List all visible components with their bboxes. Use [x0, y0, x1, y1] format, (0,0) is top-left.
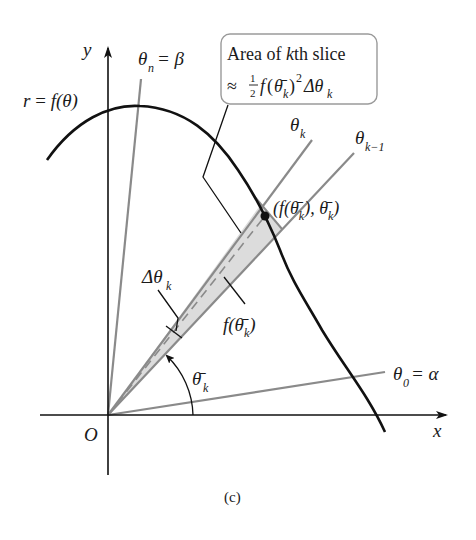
- ray-theta-k: [108, 140, 312, 415]
- theta-0-label: θ: [393, 363, 402, 384]
- theta-k-label: θ: [290, 114, 299, 135]
- callout-delta-sub: k: [327, 87, 333, 101]
- theta-n-label: θ: [138, 48, 147, 69]
- callout-leader: [203, 105, 241, 233]
- callout-frac-num: 1: [250, 72, 256, 84]
- callout-paren-close: ): [289, 76, 295, 97]
- theta-n-sub: n: [148, 61, 154, 75]
- angle-theta-bar-sub: k: [203, 381, 209, 395]
- theta-k-sub: k: [300, 127, 306, 141]
- point-label: (f(θ̄k), θ̄k): [273, 198, 339, 223]
- y-axis-label: y: [81, 39, 92, 60]
- theta-n-rest: = β: [157, 48, 185, 69]
- origin-label: O: [84, 424, 98, 445]
- sample-point: [261, 212, 270, 221]
- callout-sup-2: 2: [296, 71, 302, 85]
- delta-theta-label: Δθ: [141, 266, 162, 287]
- ray-theta-n: [108, 79, 141, 415]
- callout-delta-theta: Δθ: [303, 76, 324, 96]
- theta-k-minus-1-label: θ: [355, 127, 364, 148]
- callout-approx: ≈: [227, 76, 237, 96]
- ray-theta-0: [108, 372, 385, 415]
- polar-area-diagram: Area of kth slice ≈ 1 2 f ( θ̄ k ) 2 Δθ …: [0, 0, 476, 540]
- callout-line1: Area of kth slice: [227, 44, 345, 64]
- x-axis-label: x: [432, 420, 442, 441]
- curve-label: r = f(θ): [23, 90, 78, 112]
- callout-paren-open: (: [267, 76, 273, 97]
- delta-theta-sub: k: [166, 279, 172, 293]
- f-theta-bar-label: f(θ̄k): [223, 314, 256, 340]
- theta-k-minus-1-sub: k−1: [365, 140, 384, 154]
- figure-caption: (c): [224, 489, 241, 506]
- theta-0-rest: = α: [411, 363, 440, 384]
- callout-frac-den: 2: [250, 87, 256, 99]
- theta-0-sub: 0: [403, 376, 409, 390]
